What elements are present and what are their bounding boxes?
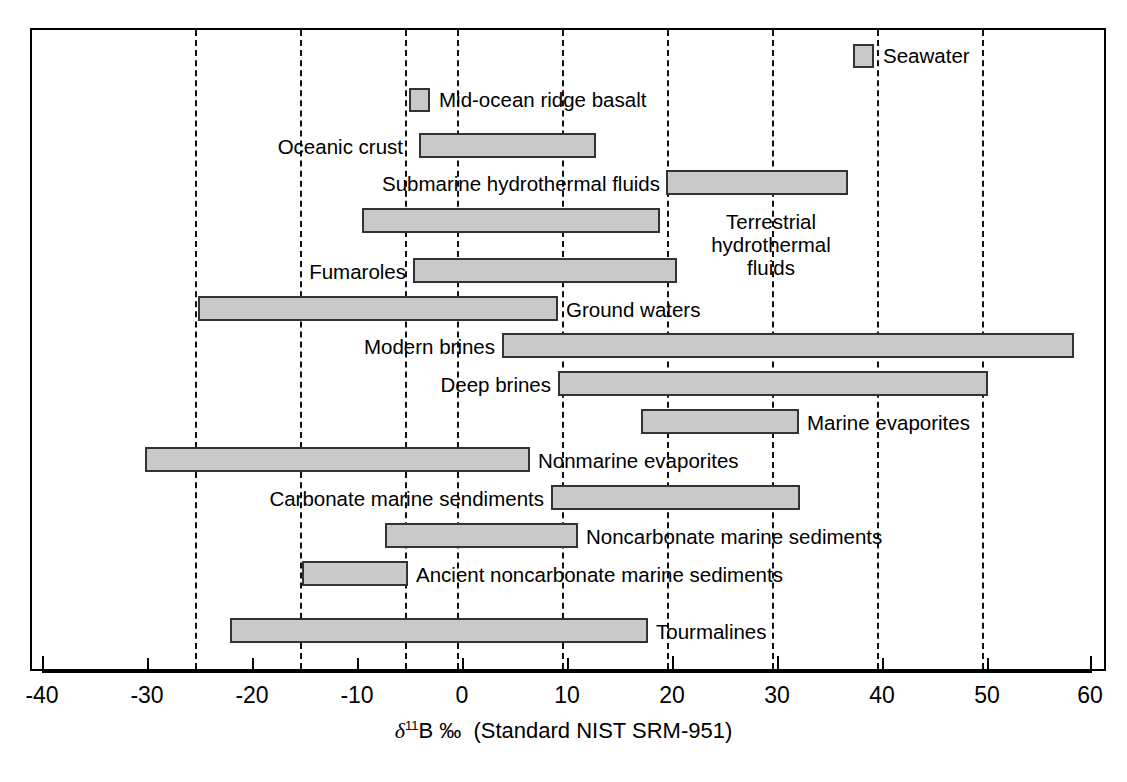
x-tick-50 xyxy=(987,658,989,671)
bar-label-noncarbonate-marine-sediments: Noncarbonate marine sediments xyxy=(586,526,882,549)
x-tick-0 xyxy=(462,658,464,671)
delta-symbol: δ xyxy=(395,718,405,743)
legend-label-seawater: Seawater xyxy=(883,44,970,68)
bar-label-carbonate-marine-sediments: Carbonate marine sendiments xyxy=(269,488,544,511)
isotope-superscript: 11 xyxy=(405,718,419,733)
x-tick--40 xyxy=(42,656,44,671)
bar-label-fumaroles: Fumaroles xyxy=(309,261,406,284)
x-ticklabel--40: -40 xyxy=(25,682,58,709)
bar-label-marine-evaporites: Marine evaporites xyxy=(807,412,970,435)
bar-ground-waters[interactable] xyxy=(198,296,558,321)
bar-label-tourmalines: Tourmalines xyxy=(656,621,767,644)
x-tick-20 xyxy=(672,656,674,671)
x-tick--20 xyxy=(252,658,254,671)
legend-label-morb: Mid-ocean ridge basalt xyxy=(439,88,646,112)
legend-item-seawater[interactable]: Seawater xyxy=(853,44,970,68)
bar-nonmarine-evaporites[interactable] xyxy=(145,447,530,472)
bar-oceanic-crust[interactable] xyxy=(419,133,596,158)
x-ticklabel-60: 60 xyxy=(1077,682,1103,709)
bar-noncarbonate-marine-sediments[interactable] xyxy=(385,523,578,548)
x-axis-line xyxy=(42,671,1092,673)
x-ticklabel-50: 50 xyxy=(974,682,1000,709)
bar-carbonate-marine-sediments[interactable] xyxy=(551,485,800,510)
x-tick--10 xyxy=(357,658,359,671)
bar-label-ancient-noncarbonate-marine-sediments: Ancient noncarbonate marine sediments xyxy=(416,564,783,587)
bar-label-terrestrial-hydrothermal-fluids: Terrestrial hydrothermal fluids xyxy=(666,211,876,280)
x-tick-60 xyxy=(1090,656,1092,671)
x-ticklabel--10: -10 xyxy=(340,682,373,709)
x-tick-30 xyxy=(777,656,779,671)
x-ticklabel-30: 30 xyxy=(764,682,790,709)
bar-tourmalines[interactable] xyxy=(230,618,648,643)
bar-label-ground-waters: Ground waters xyxy=(566,299,700,322)
x-tick-40 xyxy=(882,658,884,671)
bar-label-nonmarine-evaporites: Nonmarine evaporites xyxy=(538,450,739,473)
boron-isotope-range-chart: Seawater Mid-ocean ridge basalt Oceanic … xyxy=(0,0,1127,782)
bar-submarine-hydrothermal-fluids[interactable] xyxy=(666,170,848,195)
x-ticklabel-40: 40 xyxy=(869,682,895,709)
legend-item-morb[interactable]: Mid-ocean ridge basalt xyxy=(409,88,646,112)
x-axis-title: δ11B ‰ (Standard NIST SRM-951) xyxy=(0,718,1127,744)
x-ticklabel-10: 10 xyxy=(554,682,580,709)
x-axis-title-element: B ‰ xyxy=(418,718,461,743)
x-ticklabel-20: 20 xyxy=(659,682,685,709)
bar-label-terrestrial-line1: Terrestrial hydrothermal xyxy=(711,210,831,256)
bar-fumaroles[interactable] xyxy=(413,258,677,283)
bar-label-submarine-hydrothermal-fluids: Submarine hydrothermal fluids xyxy=(382,173,660,196)
x-ticklabel--20: -20 xyxy=(235,682,268,709)
bar-deep-brines[interactable] xyxy=(558,371,988,396)
bar-modern-brines[interactable] xyxy=(502,333,1074,358)
x-ticklabel--30: -30 xyxy=(130,682,163,709)
bar-marine-evaporites[interactable] xyxy=(641,409,799,434)
bar-label-deep-brines: Deep brines xyxy=(440,374,551,397)
x-ticklabel-0: 0 xyxy=(456,682,469,709)
x-axis xyxy=(42,671,1092,672)
legend-swatch-seawater xyxy=(853,44,874,68)
bar-ancient-noncarbonate-marine-sediments[interactable] xyxy=(302,561,408,586)
legend-swatch-morb xyxy=(409,88,430,112)
x-tick-10 xyxy=(567,658,569,671)
x-tick--30 xyxy=(147,658,149,671)
bar-terrestrial-hydrothermal-fluids[interactable] xyxy=(362,208,660,233)
x-axis-title-standard: (Standard NIST SRM-951) xyxy=(473,718,732,743)
bar-label-oceanic-crust: Oceanic crust xyxy=(278,136,403,159)
bar-label-terrestrial-line2: fluids xyxy=(747,256,795,279)
bar-label-modern-brines: Modern brines xyxy=(364,336,495,359)
gridline--30 xyxy=(195,30,197,669)
